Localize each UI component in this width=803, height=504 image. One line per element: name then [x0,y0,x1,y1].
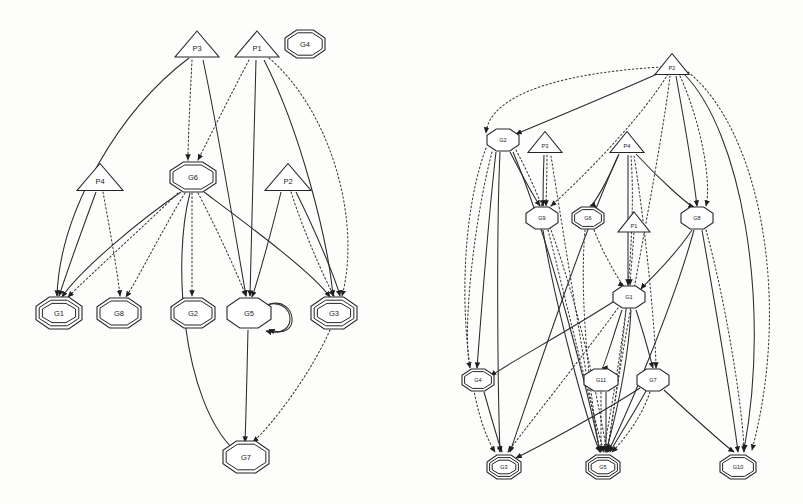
node-outline-ring [655,54,689,75]
node-outline-ring [526,207,558,229]
graph-edge [608,76,670,450]
graph-node-p4[interactable]: P4 [77,164,123,191]
graph-edge [498,152,500,452]
graph-edge [608,230,694,452]
graph-edge [702,230,738,452]
graph-edge [245,330,248,442]
node-outline-ring [462,369,494,391]
graph-node-g10[interactable]: G10 [720,455,756,479]
graph-edge [630,233,634,285]
node-outline-ring [265,164,311,191]
graph-node-g1[interactable]: G1 [36,297,82,329]
graph-edge [548,230,604,452]
graph-edge [188,60,192,160]
graph-edge [291,192,334,296]
edges-layer [57,58,769,458]
graph-edge [680,76,708,206]
graph-edge [296,192,340,296]
graph-node-g4[interactable]: G4 [462,369,494,391]
graph-node-g4[interactable]: G4 [285,30,325,58]
graph-edge [465,148,495,452]
graph-edge [103,192,120,296]
graph-node-g5[interactable]: G5 [586,455,620,479]
graph-edge [486,67,662,133]
graph-node-p1[interactable]: P1 [235,31,279,57]
graph-edge [684,74,754,450]
node-outline-ring [610,132,644,153]
graph-node-g2[interactable]: G2 [487,129,519,151]
node-outline-ring [170,162,216,192]
node-outline-ring [613,286,645,308]
graph-node-p2[interactable]: P2 [265,164,311,191]
graph-edge [688,72,769,450]
node-outline-ring [637,369,669,391]
graph-node-g7[interactable]: G7 [223,441,269,473]
graph-edge [636,310,653,368]
graph-edge [198,193,246,296]
node-outline-ring [618,212,650,232]
node-outline-ring [171,298,215,328]
graph-edge [126,193,185,297]
graph-node-g8[interactable]: G8 [681,207,713,229]
graph-node-p3[interactable]: P3 [528,132,562,153]
graph-edge [543,155,544,206]
graph-node-g8[interactable]: G8 [97,298,141,328]
graph-edge [546,155,547,206]
graph-node-g3[interactable]: G3 [311,297,357,329]
figure-canvas: P3P1G4P4G6P2G1G8G2G5G3G7P2G2P3P4G9G6P1G8… [0,0,803,504]
nodes-layer: P3P1G4P4G6P2G1G8G2G5G3G7P2G2P3P4G9G6P1G8… [36,30,756,479]
graph-edge [590,154,619,206]
graph-edge [706,230,744,452]
graph-edge [551,156,600,452]
graph-edge [516,71,664,134]
graph-edge [250,60,256,296]
graph-node-g9[interactable]: G9 [526,207,558,229]
graph-node-p1[interactable]: P1 [618,212,650,232]
graph-node-g7[interactable]: G7 [637,369,669,391]
graph-edge [676,76,697,206]
graph-edge [641,230,692,289]
graph-edge [252,192,281,297]
graph-edge [510,152,540,206]
graph-node-g5[interactable]: G5 [227,298,271,328]
node-outline-ring [720,455,756,479]
graph-node-g2[interactable]: G2 [171,298,215,328]
graph-node-g11[interactable]: G11 [584,369,618,391]
graph-edge [636,154,694,207]
graph-node-g6[interactable]: G6 [170,162,216,192]
node-outline-ring [285,30,325,58]
graph-edge [68,193,178,297]
graph-edge [510,156,618,452]
graph-node-g6[interactable]: G6 [572,207,604,229]
node-outline-ring [235,31,279,57]
graph-edge [664,390,734,452]
graph-edge [513,152,600,452]
graph-edge [491,300,616,376]
self-loop-edge [269,303,292,332]
node-outline-ring [77,164,123,191]
node-outline-ring [223,441,269,473]
node-outline-ring [175,31,219,57]
graph-edge [583,230,600,452]
graph-edge [594,230,624,286]
graph-node-g3[interactable]: G3 [487,455,521,479]
graph-node-p2[interactable]: P2 [655,54,689,75]
graph-node-g1[interactable]: G1 [613,286,645,308]
graph-edge [477,152,496,368]
node-outline-ring [487,129,519,151]
graph-edge [551,74,668,206]
graph-edge [253,330,330,442]
node-outline-ring [584,369,618,391]
graph-node-p3[interactable]: P3 [175,31,219,57]
node-outline-ring [97,298,141,328]
graph-edge [57,58,189,296]
node-outline-ring [572,207,604,229]
node-outline-ring [681,207,713,229]
graph-diagram-pair: P3P1G4P4G6P2G1G8G2G5G3G7P2G2P3P4G9G6P1G8… [0,0,803,504]
node-outline-ring [227,298,271,328]
node-outline-ring [528,132,562,153]
graph-node-p4[interactable]: P4 [610,132,644,153]
